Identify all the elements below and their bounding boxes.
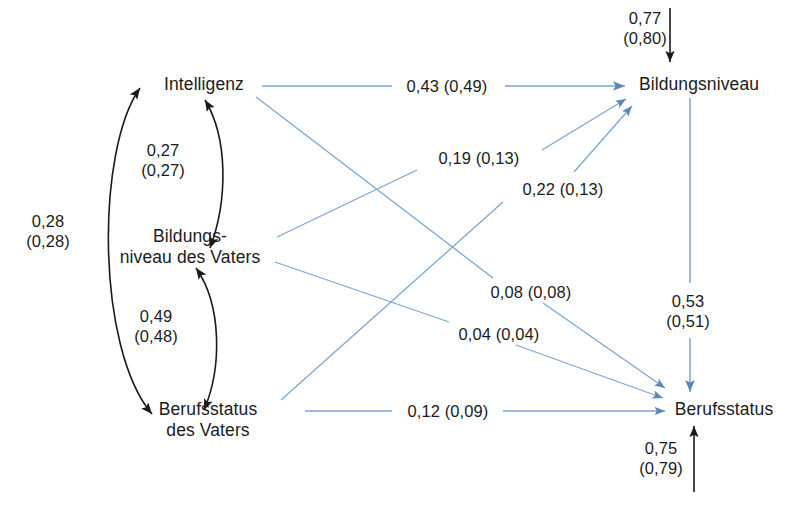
node-bildungsniveau[interactable]: Bildungsniveau xyxy=(639,74,759,95)
correlation-label-bildungvater-berufvater: 0,49 (0,48) xyxy=(134,306,178,346)
correlation-label-intelligenz-berufvater: 0,28 (0,28) xyxy=(26,211,70,251)
edge-label-intelligenz-berufsstatus: 0,08 (0,08) xyxy=(491,282,572,302)
edge-bildungvater-bildungsniveau-right xyxy=(542,99,626,150)
node-intelligenz[interactable]: Intelligenz xyxy=(164,74,244,95)
correlation-bildungvater-berufvater xyxy=(196,268,217,410)
edge-label-bildungvater-berufsstatus: 0,04 (0,04) xyxy=(459,324,540,344)
edge-intelligenz-berufsstatus-left xyxy=(256,97,493,278)
edge-label-berufvater-bildungsniveau: 0,22 (0,13) xyxy=(523,179,604,199)
path-diagram: Intelligenz Bildungs- niveau des Vaters … xyxy=(0,0,808,516)
edge-label-bildungsniveau-berufsstatus: 0,53 (0,51) xyxy=(666,291,710,331)
edge-berufvater-bildungsniveau-right xyxy=(574,106,632,172)
edge-label-berufvater-berufsstatus: 0,12 (0,09) xyxy=(408,401,489,421)
edge-bildungvater-berufsstatus-left xyxy=(275,262,449,322)
node-berufsstatus[interactable]: Berufsstatus xyxy=(675,399,773,420)
edge-label-intelligenz-bildungsniveau: 0,43 (0,49) xyxy=(407,76,488,96)
edge-intelligenz-berufsstatus-right xyxy=(543,303,665,388)
residual-label-bildungsniveau: 0,77 (0,80) xyxy=(623,8,667,48)
node-berufsstatus-des-vaters[interactable]: Berufsstatus des Vaters xyxy=(159,399,257,441)
edge-label-bildungvater-bildungsniveau: 0,19 (0,13) xyxy=(439,148,520,168)
correlation-label-intelligenz-bildungvater: 0,27 (0,27) xyxy=(141,140,185,180)
edge-berufvater-bildungsniveau-left xyxy=(281,202,503,400)
residual-label-berufsstatus: 0,75 (0,79) xyxy=(639,438,683,478)
node-bildungsniveau-des-vaters[interactable]: Bildungs- niveau des Vaters xyxy=(120,226,261,268)
